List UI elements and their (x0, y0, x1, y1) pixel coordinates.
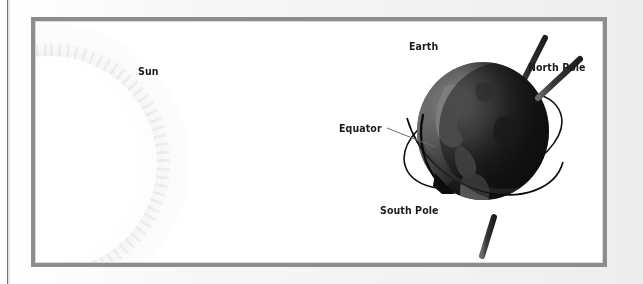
figure-root: Sun Earth North Pole Equator South Pole (0, 0, 643, 284)
label-north-pole: North Pole (528, 61, 586, 74)
illustration-canvas: Sun Earth North Pole Equator South Pole (35, 21, 603, 263)
earth-group (35, 21, 603, 263)
binding-edge-highlight (8, 0, 10, 284)
label-equator: Equator (339, 122, 382, 135)
label-south-pole: South Pole (380, 204, 439, 217)
label-earth: Earth (409, 40, 438, 53)
label-sun: Sun (138, 65, 159, 78)
